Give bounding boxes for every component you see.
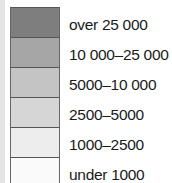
legend: over 25 000 10 000–25 000 5000–10 000 25… <box>10 7 60 183</box>
legend-label: under 1000 <box>69 166 144 183</box>
legend-label: over 25 000 <box>69 16 148 34</box>
legend-swatch <box>10 157 60 183</box>
legend-label: 1000–2500 <box>69 136 144 154</box>
legend-item: over 25 000 <box>10 7 60 37</box>
legend-swatch <box>10 37 60 67</box>
page-edge-strip <box>0 0 5 183</box>
legend-item: 1000–2500 <box>10 127 60 157</box>
legend-label: 5000–10 000 <box>69 76 156 94</box>
legend-item: 5000–10 000 <box>10 67 60 97</box>
legend-label: 2500–5000 <box>69 106 144 124</box>
legend-swatch <box>10 127 60 157</box>
legend-item: 2500–5000 <box>10 97 60 127</box>
legend-swatch <box>10 7 60 37</box>
legend-swatch <box>10 67 60 97</box>
legend-item: under 1000 <box>10 157 60 183</box>
legend-label: 10 000–25 000 <box>69 46 169 64</box>
legend-item: 10 000–25 000 <box>10 37 60 67</box>
legend-swatch <box>10 97 60 127</box>
